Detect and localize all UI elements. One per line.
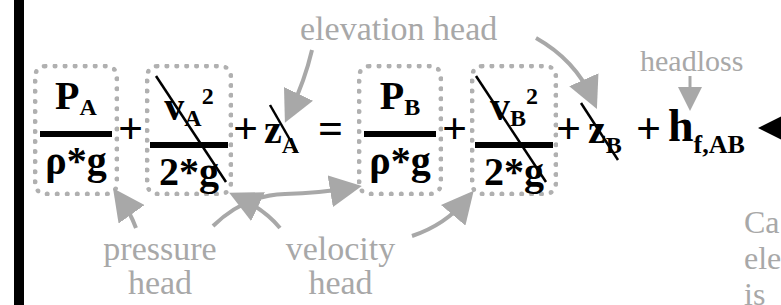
arrow-velocity-b	[412, 200, 466, 236]
arrow-velocity-b-side	[213, 188, 350, 226]
arrow-elevation-b	[536, 38, 592, 98]
strike-elevation-b	[581, 103, 618, 160]
strike-velocity-b	[476, 76, 546, 182]
arrow-elevation-a	[290, 50, 312, 112]
strike-elevation-a	[270, 105, 297, 152]
arrow-velocity-a	[240, 198, 280, 228]
annotation-arrows-layer	[0, 0, 781, 305]
arrow-pressure-head	[120, 198, 136, 228]
strike-velocity-a	[156, 76, 226, 182]
